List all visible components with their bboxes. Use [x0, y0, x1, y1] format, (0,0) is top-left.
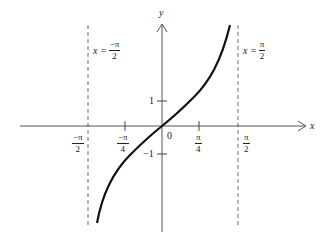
numerator: π [243, 133, 250, 144]
y-tick-label-neg1: −1 [143, 149, 154, 159]
graph-canvas [0, 0, 329, 234]
equation-fraction: −π 2 [109, 40, 121, 61]
denominator: 2 [260, 51, 265, 61]
y-tick-label-1: 1 [149, 96, 154, 106]
equation-fraction: π 2 [259, 40, 266, 61]
x-tick-label-neg-pi-2: −π 2 [72, 133, 84, 154]
x-tick-label-neg-pi-4: −π 4 [117, 133, 129, 154]
asymptote-label-left: x = −π 2 [93, 40, 120, 61]
numerator: π [195, 133, 202, 144]
x-tick-label-pi-4: π 4 [195, 133, 202, 154]
denominator: 2 [244, 144, 249, 154]
denominator: 4 [196, 144, 201, 154]
numerator: −π [72, 133, 84, 144]
origin-label: 0 [167, 131, 172, 141]
x-tick-label-pi-2: π 2 [243, 133, 250, 154]
equation-lhs: x = [243, 45, 257, 56]
denominator: 2 [76, 144, 81, 154]
numerator: π [259, 40, 266, 51]
x-axis-label: x [310, 121, 314, 131]
y-axis-label: y [159, 8, 163, 18]
denominator: 2 [112, 51, 117, 61]
numerator: −π [117, 133, 129, 144]
equation-lhs: x = [93, 45, 107, 56]
denominator: 4 [121, 144, 126, 154]
numerator: −π [109, 40, 121, 51]
asymptote-label-right: x = π 2 [243, 40, 265, 61]
